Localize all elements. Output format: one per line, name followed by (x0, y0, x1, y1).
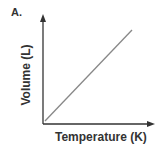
y-axis-arrow-icon (40, 14, 46, 22)
y-axis-label: Volume (L) (19, 35, 33, 115)
x-axis (43, 121, 155, 127)
x-axis-arrow-icon (147, 121, 155, 127)
x-axis-label: Temperature (K) (55, 130, 147, 144)
data-line (45, 30, 132, 121)
y-axis (40, 14, 46, 124)
